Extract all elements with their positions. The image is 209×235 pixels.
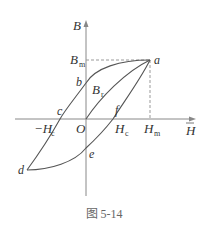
br-sub: r	[101, 90, 104, 99]
point-c-label: c	[57, 104, 63, 118]
neg-hc-label: −H	[34, 121, 53, 136]
bm-label: B	[70, 52, 78, 67]
origin-label: O	[76, 121, 86, 136]
h-axis-arrow-icon	[189, 117, 196, 122]
figure-caption: 图 5-14	[86, 207, 123, 221]
br-label: B	[92, 82, 100, 97]
point-e-label: e	[89, 147, 95, 161]
hysteresis-diagram: B H B m a b B r c f −H c O H c H m e d 图…	[0, 0, 209, 235]
hc-sub: c	[125, 129, 129, 138]
point-a-label: a	[154, 53, 160, 67]
hc-label: H	[114, 121, 125, 136]
point-b-label: b	[76, 75, 82, 89]
bm-sub: m	[79, 60, 86, 69]
point-d-label: d	[18, 163, 25, 177]
b-axis-label: B	[73, 18, 81, 33]
hm-sub: m	[154, 129, 161, 138]
neg-hc-sub: c	[51, 129, 55, 138]
h-axis-label: H	[185, 123, 196, 138]
b-axis-arrow-icon	[84, 20, 89, 27]
hm-label: H	[143, 121, 154, 136]
